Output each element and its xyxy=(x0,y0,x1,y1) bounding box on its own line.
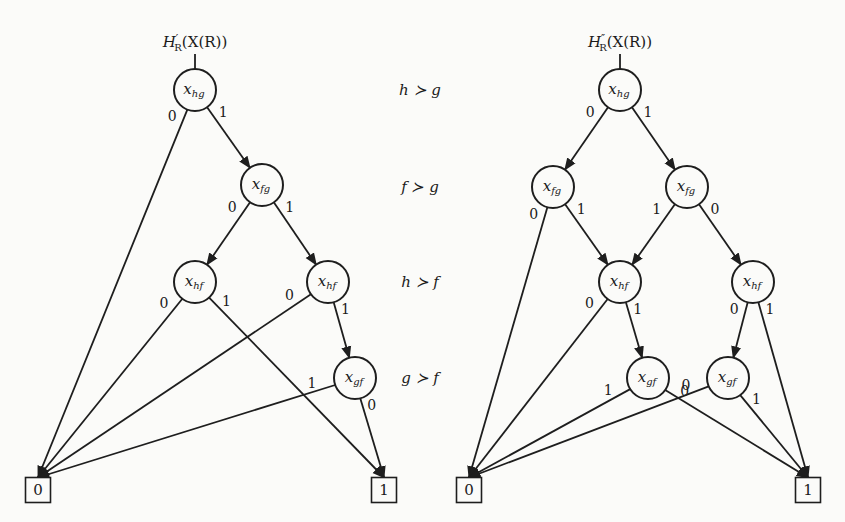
ordering-g-over-f: g ≻ f xyxy=(401,369,441,387)
right-edge-label: 0 xyxy=(529,206,538,222)
left-edge-label: 0 xyxy=(168,108,177,124)
bdd-figure: H′R(X(R)) 0101010110 xhgxfgxhfxhfxgf01 H… xyxy=(0,0,845,522)
left-edge-label: 1 xyxy=(219,104,228,120)
right-edge-r_gf1-to-r_0 xyxy=(469,389,630,477)
right-edge-label: 1 xyxy=(604,382,613,398)
left-terminal-0: 0 xyxy=(26,478,51,503)
left-bdd: H′R(X(R)) 0101010110 xhgxfgxhfxhfxgf01 xyxy=(26,32,397,503)
right-node-x-fg: xfg xyxy=(532,166,574,208)
left-edge-l_hf1-to-l_0 xyxy=(38,299,182,478)
terminal-label: 1 xyxy=(379,481,389,499)
right-edge-label: 0 xyxy=(711,201,720,217)
left-edge-l_fg-to-l_hf2 xyxy=(274,202,316,264)
right-edge-r_fg1-to-r_hf1 xyxy=(565,204,608,265)
right-edge-label: 0 xyxy=(681,377,690,393)
right-bdd-title: H″R(X(R)) xyxy=(587,32,652,53)
left-edge-l_hg-to-l_fg xyxy=(207,107,250,168)
left-edge-l_hg-to-l_0 xyxy=(38,110,187,478)
left-edge-label: 1 xyxy=(341,301,350,317)
right-edge-label: 0 xyxy=(586,104,595,120)
left-node-x-fg: xfg xyxy=(241,164,283,206)
left-edge-label: 1 xyxy=(308,375,317,391)
right-node-x-fg: xfg xyxy=(666,166,708,208)
right-edge-r_gf2-to-r_1 xyxy=(740,395,808,477)
left-edge-label: 0 xyxy=(159,295,168,311)
right-edge-label: 1 xyxy=(643,104,652,120)
terminal-label: 1 xyxy=(803,481,813,499)
left-edge-label: 0 xyxy=(228,199,237,215)
right-edge-r_fg2-to-r_hf2 xyxy=(699,204,741,265)
right-edge-label: 1 xyxy=(652,201,661,217)
ordering-h-over-f: h ≻ f xyxy=(401,273,441,291)
left-edge-l_hf2-to-l_0 xyxy=(38,294,311,477)
right-bdd: H″R(X(R)) 01011001011001 xhgxfgxfgxhfxhf… xyxy=(457,32,821,503)
right-edge-label: 1 xyxy=(765,301,774,317)
right-edge-label: 1 xyxy=(633,301,642,317)
ordering-f-over-g: f ≻ g xyxy=(400,178,439,196)
right-nodes: xhgxfgxfgxhfxhfxgfxgf01 xyxy=(457,69,821,503)
left-node-x-hg: xhg xyxy=(174,69,216,111)
right-edge-label: 0 xyxy=(730,301,739,317)
right-node-x-hf: xhf xyxy=(599,261,641,303)
right-edge-r_fg1-to-r_0 xyxy=(469,207,547,477)
left-node-x-hf: xhf xyxy=(174,261,216,303)
right-node-x-gf: xgf xyxy=(707,357,749,399)
right-edge-label: 0 xyxy=(585,295,594,311)
left-edge-label: 0 xyxy=(367,397,376,413)
left-nodes: xhgxfgxhfxhfxgf01 xyxy=(26,69,397,503)
right-node-x-hf: xhf xyxy=(732,261,774,303)
left-edge-label: 1 xyxy=(222,293,231,309)
left-edge-label: 0 xyxy=(285,287,294,303)
left-bdd-title: H′R(X(R)) xyxy=(162,32,228,53)
right-terminal-1: 1 xyxy=(796,478,821,503)
right-terminal-0: 0 xyxy=(457,478,482,503)
left-edge-label: 1 xyxy=(285,199,294,215)
variable-orderings: h ≻ gf ≻ gh ≻ fg ≻ f xyxy=(399,81,441,387)
left-node-x-gf: xgf xyxy=(334,357,376,399)
terminal-label: 0 xyxy=(33,481,43,499)
ordering-h-over-g: h ≻ g xyxy=(399,81,441,99)
left-terminal-1: 1 xyxy=(372,478,397,503)
right-node-x-hg: xhg xyxy=(599,69,641,111)
right-node-x-gf: xgf xyxy=(627,357,669,399)
terminal-label: 0 xyxy=(464,481,474,499)
right-edge-label: 1 xyxy=(752,391,761,407)
right-edge-r_hg-to-r_fg2 xyxy=(632,107,675,169)
left-edge-l_gf-to-l_0 xyxy=(38,385,335,478)
left-node-x-hf: xhf xyxy=(307,261,349,303)
right-edge-label: 1 xyxy=(577,201,586,217)
